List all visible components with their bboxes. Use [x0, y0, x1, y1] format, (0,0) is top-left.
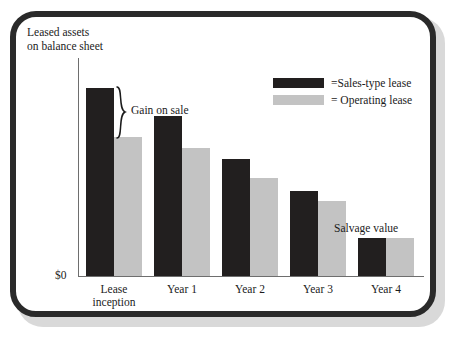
- category-label-2: Year 1: [148, 283, 216, 296]
- salvage-value-label: Salvage value: [334, 222, 398, 234]
- legend-swatch-sales-type-lease: [273, 78, 324, 88]
- category-label-3: Year 2: [216, 283, 284, 296]
- y-axis-title: Leased assets on balance sheet: [27, 26, 207, 53]
- category-label-1: Lease inception: [80, 283, 148, 309]
- bar-operating-1: [114, 137, 142, 276]
- category-label-4: Year 3: [284, 283, 352, 296]
- bar-sales_type-5: [358, 238, 386, 276]
- y-axis-zero-label: $0: [55, 269, 67, 281]
- chart-figure: Leased assets on balance sheet $0 Lease …: [0, 0, 456, 337]
- gain-on-sale-label: Gain on sale: [131, 104, 188, 116]
- bar-operating-3: [250, 178, 278, 276]
- bar-operating-2: [182, 148, 210, 276]
- legend-swatch-operating-lease: [273, 95, 324, 105]
- bar-sales_type-2: [154, 116, 182, 276]
- bar-sales_type-1: [86, 88, 114, 276]
- bar-sales_type-4: [290, 191, 318, 276]
- gain-on-sale-annotation: Gain on sale: [114, 86, 224, 140]
- bar-sales_type-3: [222, 159, 250, 276]
- curly-brace-icon: [114, 86, 130, 140]
- legend-item-sales-type-lease: =Sales-type lease: [273, 76, 412, 90]
- category-label-5: Year 4: [352, 283, 420, 296]
- chart-legend: =Sales-type lease = Operating lease: [273, 76, 412, 110]
- bar-operating-4: [318, 201, 346, 276]
- legend-label-operating-lease: = Operating lease: [331, 94, 412, 106]
- legend-label-sales-type-lease: =Sales-type lease: [331, 77, 411, 89]
- x-axis-line: [78, 276, 424, 277]
- legend-item-operating-lease: = Operating lease: [273, 93, 412, 107]
- bar-operating-5: [386, 238, 414, 276]
- y-axis-line: [78, 58, 79, 277]
- plot-area: Leased assets on balance sheet $0 Lease …: [0, 0, 456, 337]
